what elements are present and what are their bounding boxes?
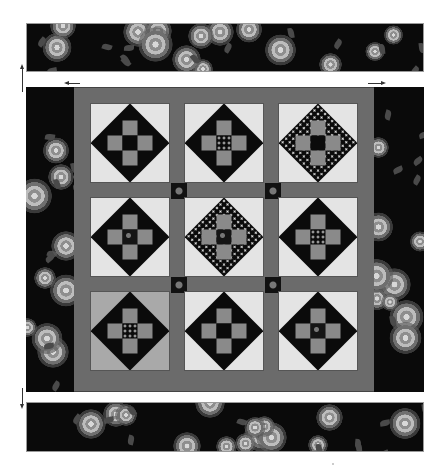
- patch-square: [138, 151, 153, 166]
- patch-square: [217, 230, 232, 245]
- patch-square: [296, 309, 311, 324]
- patch-square: [232, 245, 247, 260]
- bottom-floral-border: [26, 402, 424, 452]
- patch-square: [108, 136, 123, 151]
- patch-square: [202, 121, 217, 136]
- patch-square: [326, 136, 341, 151]
- patch-square: [123, 136, 138, 151]
- leaf-motif: [127, 434, 135, 445]
- patch-square: [202, 309, 217, 324]
- leaf-motif: [316, 444, 322, 452]
- rose-motif: [265, 34, 296, 65]
- arrow-left-head: [64, 81, 69, 85]
- patch-square: [232, 151, 247, 166]
- patch-square: [296, 151, 311, 166]
- rose-motif: [195, 402, 225, 418]
- nine-patch: [296, 215, 341, 260]
- patch-square: [123, 215, 138, 230]
- leaf-motif: [384, 110, 393, 121]
- quilt-block-r3c3: [278, 291, 358, 371]
- arrow-down-head: [20, 404, 24, 409]
- leaf-motif: [419, 131, 424, 139]
- patch-square: [326, 324, 341, 339]
- quilt-block-r2c3: [278, 197, 358, 277]
- patch-square: [217, 324, 232, 339]
- patch-square: [123, 151, 138, 166]
- quilt-block-r1c3: [278, 103, 358, 183]
- leaf-motif: [412, 156, 424, 167]
- quilt-block-r2c2: [184, 197, 264, 277]
- leaf-motif: [46, 67, 57, 72]
- patch-square: [138, 324, 153, 339]
- rose-motif: [43, 137, 69, 163]
- nine-patch: [202, 309, 247, 354]
- patch-square: [311, 230, 326, 245]
- patch-square: [232, 309, 247, 324]
- arrow-right-head: [381, 81, 386, 85]
- patch-square: [326, 151, 341, 166]
- patch-square: [311, 215, 326, 230]
- patch-square: [138, 136, 153, 151]
- nine-patch: [296, 309, 341, 354]
- nine-patch: [202, 121, 247, 166]
- leaf-motif: [378, 449, 390, 452]
- rose-motif: [50, 274, 74, 307]
- leaf-motif: [333, 38, 344, 50]
- rose-motif: [138, 27, 173, 62]
- patch-square: [138, 339, 153, 354]
- patch-square: [123, 230, 138, 245]
- rose-motif: [374, 212, 393, 242]
- patch-square: [311, 121, 326, 136]
- patch-square: [311, 245, 326, 260]
- rose-motif: [188, 23, 214, 49]
- rose-motif: [244, 417, 265, 438]
- rose-motif: [173, 432, 201, 452]
- leaf-motif: [392, 165, 404, 174]
- patch-square: [108, 245, 123, 260]
- patch-square: [232, 324, 247, 339]
- patch-square: [123, 339, 138, 354]
- patch-square: [232, 230, 247, 245]
- patch-square: [123, 121, 138, 136]
- quilt-block-r3c2: [184, 291, 264, 371]
- leaf-motif: [412, 174, 422, 186]
- rose-motif: [410, 231, 424, 251]
- arrow-right-icon: [368, 83, 382, 84]
- patch-square: [138, 245, 153, 260]
- arrow-up-head: [20, 64, 24, 69]
- patch-square: [326, 230, 341, 245]
- patch-square: [232, 136, 247, 151]
- patch-square: [217, 136, 232, 151]
- leaf-motif: [356, 443, 363, 452]
- nine-patch: [296, 121, 341, 166]
- patch-square: [202, 245, 217, 260]
- rose-motif: [26, 178, 52, 213]
- patch-square: [311, 151, 326, 166]
- patch-square: [138, 309, 153, 324]
- patch-square: [296, 136, 311, 151]
- patch-square: [311, 309, 326, 324]
- patch-square: [326, 215, 341, 230]
- patch-square: [202, 230, 217, 245]
- patch-square: [296, 324, 311, 339]
- leaf-motif: [410, 65, 421, 72]
- left-floral-border: [26, 87, 74, 392]
- top-floral-border: [26, 23, 424, 72]
- patch-square: [123, 245, 138, 260]
- patch-square: [296, 245, 311, 260]
- patch-square: [311, 136, 326, 151]
- patch-square: [232, 215, 247, 230]
- patch-square: [108, 339, 123, 354]
- patch-square: [326, 309, 341, 324]
- nine-patch: [202, 215, 247, 260]
- rose-motif: [389, 322, 421, 354]
- stray-mark: [332, 463, 334, 465]
- patch-square: [123, 324, 138, 339]
- leaf-motif: [51, 380, 62, 392]
- right-floral-border: [374, 87, 424, 392]
- quilt-block-r1c1: [90, 103, 170, 183]
- patch-square: [108, 121, 123, 136]
- patch-square: [202, 324, 217, 339]
- patch-square: [326, 121, 341, 136]
- nine-patch: [108, 121, 153, 166]
